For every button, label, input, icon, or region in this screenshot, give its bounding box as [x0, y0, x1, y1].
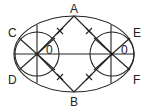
label-b: B — [70, 95, 78, 109]
label-right-center: 0 — [121, 43, 128, 57]
label-e: E — [133, 26, 141, 40]
left-center-dot — [36, 53, 39, 56]
label-a: A — [70, 2, 78, 16]
label-c: C — [8, 26, 17, 40]
label-f: F — [133, 73, 140, 87]
ellipse-construction-diagram: A B C D E F 0 0 — [0, 0, 152, 112]
label-d: D — [8, 73, 17, 87]
label-left-center: 0 — [46, 43, 53, 57]
right-center-dot — [111, 53, 114, 56]
